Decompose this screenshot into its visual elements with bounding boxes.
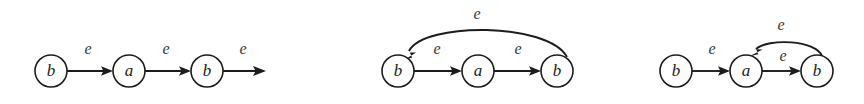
edge-label-d1-e3: e xyxy=(239,40,246,57)
edge-label-d3-e2: e xyxy=(779,47,786,64)
diagram-3: e e e b a xyxy=(660,16,833,87)
edge-label-d2-e1: e xyxy=(433,40,440,57)
edge-label-d1-e2: e xyxy=(162,40,169,57)
node-label-d3-n3: b xyxy=(813,61,822,80)
node-label-d2-n3: b xyxy=(553,61,562,80)
node-label-d3-n1: b xyxy=(672,61,681,80)
node-d2-n1: b xyxy=(382,55,414,87)
node-d3-n3: b xyxy=(801,55,833,87)
edge-d2-e1: e xyxy=(414,40,462,76)
node-d2-n3: b xyxy=(541,55,573,87)
edge-label-d3-e3: e xyxy=(777,16,784,33)
edge-d3-e2: e xyxy=(762,47,801,76)
edge-label-d2-e2: e xyxy=(514,40,521,57)
diagram-1: e e e b a xyxy=(35,40,266,87)
edge-label-d1-e1: e xyxy=(84,40,91,57)
transition-graphs-svg: e e e b a xyxy=(0,0,864,104)
edge-d2-e2: e xyxy=(494,40,541,76)
edge-d2-e3: e xyxy=(404,5,567,60)
node-label-d3-n2: a xyxy=(742,61,751,80)
node-d3-n1: b xyxy=(660,55,692,87)
node-d1-n3: b xyxy=(191,55,223,87)
node-label-d2-n2: a xyxy=(474,61,483,80)
node-d3-n2: a xyxy=(730,55,762,87)
node-d1-n2: a xyxy=(113,55,145,87)
node-d1-n1: b xyxy=(35,55,67,87)
node-label-d1-n3: b xyxy=(203,61,212,80)
edge-d1-e3: e xyxy=(223,40,266,76)
figure-canvas: e e e b a xyxy=(0,0,864,104)
edge-d1-e2: e xyxy=(145,40,191,76)
edge-arc-d3-e3 xyxy=(756,42,822,56)
edge-label-d3-e1: e xyxy=(708,40,715,57)
node-label-d1-n2: a xyxy=(125,61,134,80)
node-d2-n2: a xyxy=(462,55,494,87)
node-label-d1-n1: b xyxy=(47,61,56,80)
node-label-d2-n1: b xyxy=(394,61,403,80)
edge-d3-e1: e xyxy=(692,40,730,76)
edge-label-d2-e3: e xyxy=(473,5,480,22)
diagram-2: e e e b a xyxy=(382,5,573,87)
edge-d1-e1: e xyxy=(67,40,113,76)
arrow-head-d3-e3 xyxy=(750,49,763,56)
